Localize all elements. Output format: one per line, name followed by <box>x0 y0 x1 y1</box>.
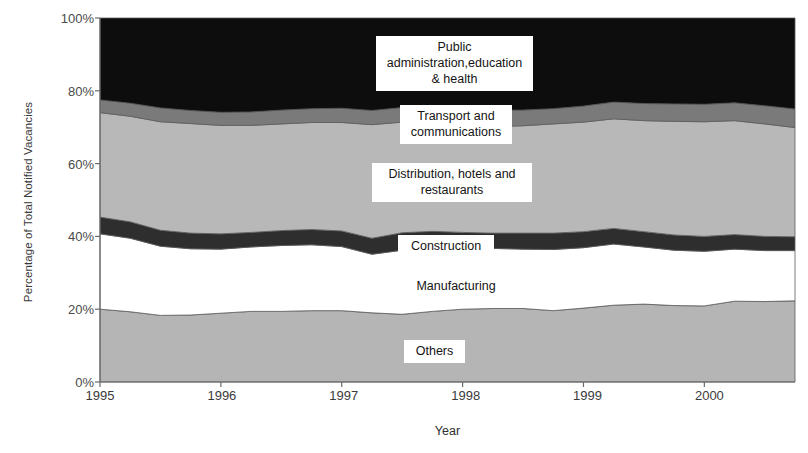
x-tick-1995: 1995 <box>86 388 115 403</box>
series-label-public-administration: Public administration,education & health <box>376 36 533 91</box>
y-tick-40: 40% <box>48 229 94 244</box>
x-tick-1999: 1999 <box>573 388 602 403</box>
y-tick-60: 60% <box>48 156 94 171</box>
x-tick-2000: 2000 <box>695 388 724 403</box>
y-axis-ticks: 100% 80% 60% 40% 20% 0% <box>44 0 94 453</box>
series-label-others: Others <box>404 340 465 363</box>
y-axis-title: Percentage of Total Notified Vacancies <box>22 32 34 372</box>
x-tick-1997: 1997 <box>329 388 358 403</box>
x-axis-title: Year <box>100 424 795 438</box>
y-tick-80: 80% <box>48 83 94 98</box>
x-tick-1998: 1998 <box>451 388 480 403</box>
series-label-transport: Transport and communications <box>400 105 512 144</box>
stacked-area-chart: Percentage of Total Notified Vacancies 1… <box>0 0 808 453</box>
series-label-construction: Construction <box>398 235 494 258</box>
series-label-distribution: Distribution, hotels and restaurants <box>372 163 532 202</box>
x-tick-1996: 1996 <box>207 388 236 403</box>
y-tick-100: 100% <box>48 11 94 26</box>
y-tick-20: 20% <box>48 302 94 317</box>
series-label-manufacturing: Manufacturing <box>405 275 507 298</box>
